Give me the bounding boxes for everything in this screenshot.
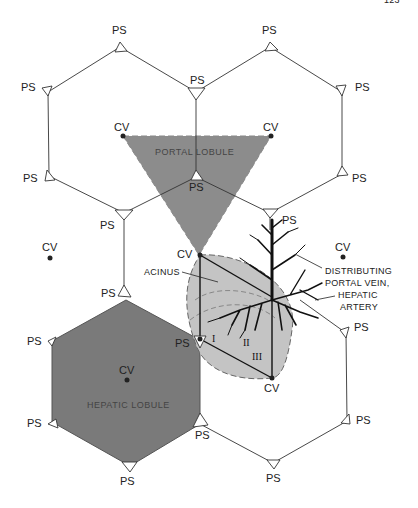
vessel-pointer	[295, 254, 322, 268]
svg-text:DISTRIBUTING: DISTRIBUTING	[325, 266, 392, 276]
portal-space-icon	[48, 419, 58, 428]
portal-space-icon	[122, 462, 137, 472]
zone-3-label: III	[252, 351, 262, 362]
page-number: 123	[384, 0, 400, 5]
svg-text:PS: PS	[101, 287, 116, 299]
portal-space-icon	[337, 166, 348, 176]
portal-space-icon	[336, 85, 346, 96]
svg-text:PS: PS	[356, 414, 371, 426]
zone-2-label: II	[243, 337, 250, 348]
svg-text:PS: PS	[21, 81, 36, 93]
central-vein-dot	[48, 256, 53, 261]
svg-text:CV: CV	[42, 241, 58, 253]
central-vein-dot	[198, 337, 203, 342]
svg-text:PORTAL VEIN,: PORTAL VEIN,	[325, 278, 389, 288]
svg-text:CV: CV	[114, 121, 130, 133]
central-vein-dot	[269, 134, 274, 139]
svg-text:PS: PS	[352, 172, 367, 184]
portal-space-icon	[188, 88, 205, 100]
svg-text:CV: CV	[264, 382, 280, 394]
portal-space-icon	[265, 42, 278, 51]
svg-text:CV: CV	[335, 241, 351, 253]
portal-space-icon	[115, 210, 133, 220]
svg-text:PS: PS	[262, 24, 277, 36]
svg-text:PS: PS	[189, 181, 204, 193]
portal-space-icon	[118, 285, 131, 297]
svg-text:CV: CV	[177, 248, 193, 260]
central-vein-dot	[125, 378, 130, 383]
svg-text:PS: PS	[266, 472, 281, 484]
svg-text:PS: PS	[120, 475, 135, 487]
svg-text:PS: PS	[195, 429, 210, 441]
svg-text:PS: PS	[23, 172, 38, 184]
svg-text:HEPATIC: HEPATIC	[338, 290, 378, 300]
central-vein-dot	[198, 253, 203, 258]
artery-pointer	[315, 296, 335, 300]
portal-space-icon	[42, 86, 52, 96]
portal-space-icon	[341, 414, 350, 424]
distributing-vessel-label: DISTRIBUTING PORTAL VEIN, HEPATIC ARTERY	[325, 266, 392, 312]
svg-text:PS: PS	[112, 24, 127, 36]
svg-text:PS: PS	[175, 337, 190, 349]
acinus-label: ACINUS	[144, 267, 180, 277]
portal-space-icon	[263, 209, 278, 218]
hepatic-lobule-shape	[52, 300, 200, 466]
svg-text:CV: CV	[263, 121, 279, 133]
central-vein-dot	[270, 376, 275, 381]
hepatic-lobule-label: HEPATIC LOBULE	[87, 400, 170, 410]
zone-1-label: I	[212, 333, 215, 344]
liver-lobule-diagram: 123	[0, 0, 418, 508]
svg-text:ARTERY: ARTERY	[340, 302, 378, 312]
portal-space-icon	[115, 42, 127, 52]
svg-text:PS: PS	[27, 335, 42, 347]
central-vein-dot	[121, 134, 126, 139]
svg-text:CV: CV	[119, 364, 135, 376]
central-vein-dot	[341, 255, 346, 260]
portal-space-icon	[267, 460, 280, 469]
svg-text:PS: PS	[355, 81, 370, 93]
svg-text:PS: PS	[100, 219, 115, 231]
svg-text:PS: PS	[282, 214, 297, 226]
portal-space-icon	[45, 170, 55, 181]
svg-text:PS: PS	[190, 74, 205, 86]
portal-space-icon	[340, 327, 349, 338]
svg-text:PS: PS	[27, 417, 42, 429]
portal-lobule-label: PORTAL LOBULE	[155, 147, 234, 157]
svg-text:PS: PS	[354, 321, 369, 333]
